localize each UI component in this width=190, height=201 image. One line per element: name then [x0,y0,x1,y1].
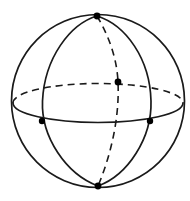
equator-group [13,84,183,123]
sphere-diagram: Sphere with great circles Line drawing o… [0,0,190,201]
meridian-left-arc [42,16,98,186]
equator-front-arc [13,103,183,123]
sphere-centre-point [115,79,122,86]
equator-back-arc-dashed [13,84,183,104]
marked-points-group [39,13,153,190]
sphere-silhouette-circle [12,15,185,188]
equator-right-point [147,118,153,124]
equator-left-point [39,118,45,124]
north-pole-point [94,13,101,20]
meridian-back-dashed-arc [97,16,118,186]
figure-canvas: Sphere with great circles Line drawing o… [0,0,190,201]
sphere-outline-group [12,15,185,188]
meridian-right-arc [97,16,151,186]
meridian-left-group [42,16,98,186]
south-pole-point [95,183,102,190]
meridian-back-group [97,16,118,186]
meridian-right-group [97,16,151,186]
